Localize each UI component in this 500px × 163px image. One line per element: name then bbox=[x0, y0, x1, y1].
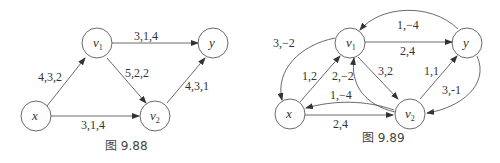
node-y-label: y bbox=[207, 35, 215, 50]
node-v2-label: v2 bbox=[405, 106, 415, 123]
node-v2-label: v2 bbox=[150, 108, 160, 125]
edge-label-v2-y: 4,3,1 bbox=[185, 79, 209, 93]
edge-label-y-v2: 3,-1 bbox=[442, 83, 461, 97]
edge-label-v1-x: 3,−2 bbox=[273, 36, 295, 50]
edge-label-x-v1: 4,3,2 bbox=[38, 70, 62, 84]
node-x-label: x bbox=[31, 108, 38, 123]
node-y-label: y bbox=[461, 35, 469, 50]
edge-label-x-v1: 1,2 bbox=[302, 69, 317, 83]
edge-label-v1-y: 2,4 bbox=[400, 44, 415, 58]
figure-caption: 图 9.88 bbox=[105, 139, 148, 153]
node-v1-label: v1 bbox=[346, 35, 356, 52]
node-v1-label: v1 bbox=[93, 35, 103, 52]
node-x-label: x bbox=[285, 106, 292, 121]
figure-caption: 图 9.89 bbox=[362, 131, 405, 145]
edge-label-v1-v2: 5,2,2 bbox=[125, 66, 149, 80]
edge-label-v2-y: 1,1 bbox=[424, 64, 439, 78]
edge-v1-v2 bbox=[107, 58, 146, 103]
graph-figures: v1 y x v2 4,3,2 3,1,4 5,2,2 4,3,1 3,1,4 … bbox=[0, 0, 500, 163]
edge-label-v2-x: 1,−4 bbox=[330, 88, 352, 102]
edge-label-y-v1: 1,−4 bbox=[397, 18, 419, 32]
edge-label-v2-v1: 2,−2 bbox=[332, 69, 354, 83]
figure-9-89-labels: v1 y x v2 1,−4 3,−2 2,4 1,2 2,−2 3,2 1,1… bbox=[273, 18, 469, 145]
edge-v2-x bbox=[306, 102, 394, 110]
edge-label-x-v2: 3,1,4 bbox=[81, 118, 105, 132]
edge-label-v1-y: 3,1,4 bbox=[134, 29, 158, 43]
edge-label-v1-v2: 3,2 bbox=[378, 64, 393, 78]
edge-label-x-v2: 2,4 bbox=[333, 117, 348, 131]
